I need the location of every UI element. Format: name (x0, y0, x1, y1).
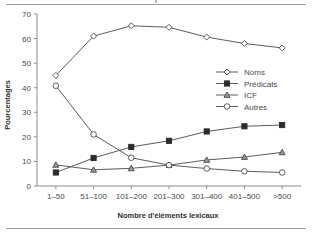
bottom-divider-rule (6, 228, 306, 229)
y-tick-label: 50 (22, 59, 31, 68)
data-point (166, 162, 172, 168)
x-tick-label: 401–500 (229, 192, 261, 201)
y-axis-title: Pourcentages (3, 80, 12, 130)
legend-label: Noms (244, 68, 265, 77)
y-tick-label: 40 (22, 84, 31, 93)
y-tick-label: 30 (22, 108, 31, 117)
data-point (53, 83, 59, 89)
legend-label: Autres (244, 103, 267, 112)
figure-container: 010203040506070 1–5051–100101–200201–300… (0, 0, 312, 234)
data-point (53, 170, 58, 175)
legend-marker (224, 69, 230, 75)
data-point (129, 144, 134, 149)
data-point (128, 155, 134, 161)
data-point (279, 149, 285, 154)
legend-marker (224, 104, 230, 110)
data-point (166, 24, 172, 30)
y-tick-label: 10 (22, 157, 31, 166)
top-center-mark (155, 0, 157, 3)
data-point (280, 122, 285, 127)
data-point (279, 170, 285, 176)
x-axis-title: Nombre d'éléments lexicaux (118, 211, 220, 220)
data-point (204, 34, 210, 40)
legend-item-icf[interactable]: ICF (216, 91, 257, 100)
data-point (204, 129, 209, 134)
data-point (279, 45, 285, 51)
x-tick-label: 301–400 (191, 192, 223, 201)
data-point (91, 155, 96, 160)
y-tick-label: 20 (22, 133, 31, 142)
data-point (242, 168, 248, 174)
y-axis-tick-labels: 010203040506070 (22, 10, 31, 191)
x-tick-label: 201–300 (153, 192, 185, 201)
y-tick-label: 60 (22, 35, 31, 44)
data-point (91, 132, 97, 138)
data-point (242, 124, 247, 129)
legend-item-noms[interactable]: Noms (216, 68, 265, 77)
chart-legend: NomsPrédicatsICFAutres (216, 68, 277, 112)
y-tick-label: 70 (22, 10, 31, 19)
series-icf (53, 149, 285, 172)
legend-label: ICF (244, 91, 257, 100)
data-point (128, 23, 134, 29)
data-point (53, 162, 59, 167)
x-axis-tick-labels: 1–5051–100101–200201–300301–400401–500>5… (47, 192, 292, 201)
y-tick-label: 0 (27, 182, 32, 191)
data-point (166, 138, 171, 143)
data-point (204, 166, 210, 172)
x-tick-label: 51–100 (80, 192, 107, 201)
x-tick-label: >500 (273, 192, 292, 201)
x-tick-label: 101–200 (116, 192, 148, 201)
legend-item-pr-dicats[interactable]: Prédicats (216, 80, 277, 89)
legend-marker (224, 81, 229, 86)
top-divider-rule (6, 4, 306, 5)
x-tick-label: 1–50 (47, 192, 65, 201)
line-chart: 010203040506070 1–5051–100101–200201–300… (0, 0, 312, 224)
legend-label: Prédicats (244, 80, 277, 89)
data-point (241, 40, 247, 46)
legend-item-autres[interactable]: Autres (216, 103, 267, 112)
